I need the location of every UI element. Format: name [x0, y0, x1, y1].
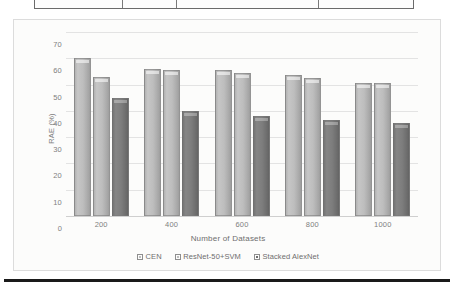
bar-fill — [234, 73, 251, 216]
legend-swatch-icon — [254, 254, 260, 260]
y-axis-tick-label: 50 — [53, 92, 62, 101]
bar — [144, 69, 161, 216]
bar-fill — [304, 78, 321, 216]
y-axis-tick-label: 40 — [53, 118, 62, 127]
bar-highlight — [165, 72, 178, 75]
bar — [74, 58, 91, 216]
bar-highlight — [287, 77, 300, 80]
bar-highlight — [236, 75, 249, 78]
chart-legend: CENResNet-50+SVMStacked AlexNet — [14, 252, 442, 261]
y-axis-tick-label: 60 — [53, 66, 62, 75]
bar-highlight — [217, 72, 230, 75]
bar-highlight — [395, 125, 408, 128]
table-cell-divider — [122, 0, 123, 8]
bar-fill — [285, 75, 302, 216]
bar-fill — [323, 120, 340, 216]
x-axis-tick-label: 1000 — [374, 220, 392, 229]
bar — [182, 111, 199, 216]
bar-fill — [93, 77, 110, 216]
bar — [234, 73, 251, 216]
bar — [323, 120, 340, 216]
y-axis-tick-labels: 010203040506070 — [32, 32, 62, 216]
legend-swatch-icon — [137, 254, 143, 260]
bar-highlight — [184, 113, 197, 116]
y-axis-tick-label: 0 — [58, 224, 62, 233]
y-axis-tick-label: 20 — [53, 171, 62, 180]
bar-fill — [74, 58, 91, 216]
y-axis-tick-label: 30 — [53, 145, 62, 154]
bar-highlight — [325, 122, 338, 125]
bar — [355, 83, 372, 216]
bar — [163, 70, 180, 216]
bar-fill — [374, 83, 391, 216]
bar — [393, 123, 410, 216]
bar — [374, 83, 391, 216]
x-axis-tick-label: 600 — [235, 220, 248, 229]
bar-fill — [253, 116, 270, 216]
bar-highlight — [255, 118, 268, 121]
x-axis-tick-label: 400 — [165, 220, 178, 229]
bar-highlight — [95, 79, 108, 82]
bar — [304, 78, 321, 216]
table-cell-divider — [176, 0, 177, 8]
bar-highlight — [376, 85, 389, 88]
chart-figure: RAE (%) 010203040506070 2004006008001000… — [13, 19, 441, 271]
page-table-fragment — [34, 0, 414, 9]
bar — [253, 116, 270, 216]
y-axis-tick-label: 70 — [53, 40, 62, 49]
bar — [93, 77, 110, 216]
bar-fill — [163, 70, 180, 216]
bar — [285, 75, 302, 216]
legend-item[interactable]: CEN — [137, 252, 162, 261]
legend-swatch-icon — [175, 254, 181, 260]
bar-highlight — [114, 100, 127, 103]
legend-item[interactable]: ResNet-50+SVM — [175, 252, 241, 261]
bar-fill — [182, 111, 199, 216]
x-axis-tick-label: 800 — [306, 220, 319, 229]
bar-highlight — [306, 80, 319, 83]
bar-fill — [393, 123, 410, 216]
bar-fill — [215, 70, 232, 216]
table-cell-divider — [318, 0, 319, 8]
page-bottom-rule — [4, 279, 450, 282]
legend-label: ResNet-50+SVM — [183, 252, 241, 261]
x-axis-tick-labels: 2004006008001000 — [66, 220, 418, 234]
x-axis-title: Number of Datasets — [14, 234, 442, 243]
plot-area — [66, 32, 418, 216]
bar-fill — [112, 98, 129, 216]
bar-fill — [144, 69, 161, 216]
bar-highlight — [357, 85, 370, 88]
bar-highlight — [76, 60, 89, 63]
bar-fill — [355, 83, 372, 216]
legend-item[interactable]: Stacked AlexNet — [254, 252, 319, 261]
y-axis-tick-label: 10 — [53, 197, 62, 206]
bars-layer — [66, 32, 418, 216]
bar-highlight — [146, 71, 159, 74]
bar — [215, 70, 232, 216]
x-axis-tick-label: 200 — [95, 220, 108, 229]
legend-label: Stacked AlexNet — [262, 252, 319, 261]
gridline — [66, 216, 418, 217]
legend-label: CEN — [146, 252, 162, 261]
bar — [112, 98, 129, 216]
